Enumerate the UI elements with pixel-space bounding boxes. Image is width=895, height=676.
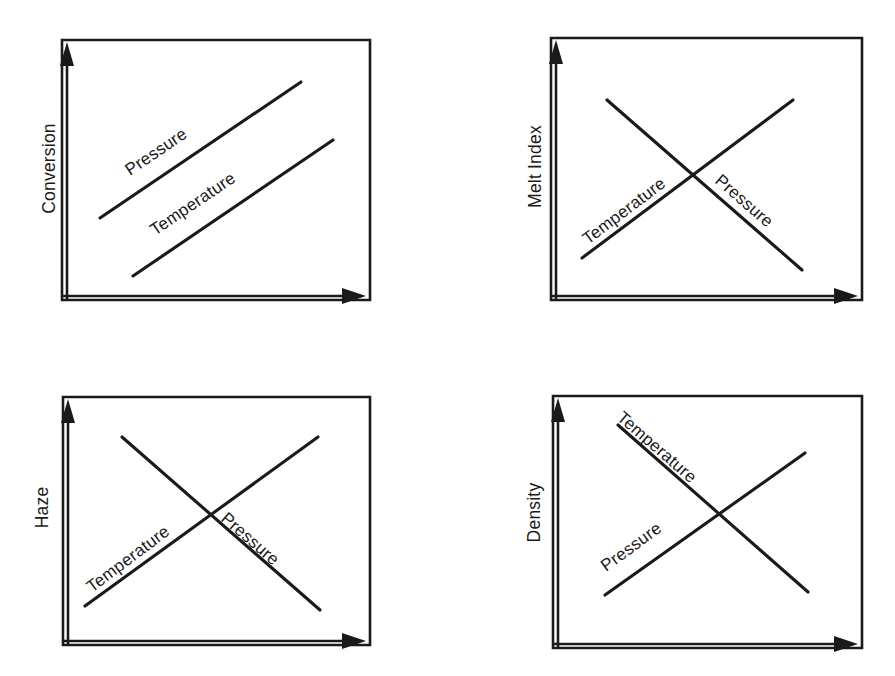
plot-area-haze: Temperature Pressure	[0, 357, 400, 676]
trend-line-pressure	[607, 100, 802, 270]
curve-label-temperature: Temperature	[613, 408, 700, 487]
trend-line-temperature	[85, 437, 318, 606]
panel-conversion: Conversion Pressure Temperature	[0, 0, 400, 330]
curve-label-temperature: Temperature	[147, 168, 239, 239]
x-axis-arrow-icon	[834, 288, 858, 304]
figure-canvas: Conversion Pressure Temperature Melt Ind…	[0, 0, 895, 676]
y-axis-label-density: Density	[524, 455, 545, 570]
plot-area-density: Temperature Pressure	[490, 357, 895, 676]
y-axis-label-conversion: Conversion	[39, 114, 60, 224]
y-axis-label-haze: Haze	[32, 458, 53, 558]
x-axis-arrow-icon	[342, 288, 366, 304]
trend-line-pressure	[605, 453, 805, 595]
panel-melt-index: Melt Index Temperature Pressure	[490, 0, 895, 330]
curve-label-temperature: Temperature	[83, 522, 173, 597]
panel-frame	[62, 40, 370, 300]
plot-area-conversion: Pressure Temperature	[0, 0, 400, 330]
trend-line-temperature	[133, 140, 333, 276]
y-axis-label-melt-index: Melt Index	[525, 107, 546, 227]
curve-label-temperature: Temperature	[579, 174, 669, 249]
curve-label-pressure: Pressure	[122, 124, 191, 179]
panel-frame	[551, 38, 862, 300]
curve-label-pressure: Pressure	[597, 518, 665, 575]
x-axis-arrow-icon	[342, 633, 366, 649]
panel-haze: Haze Temperature Pressure	[0, 357, 400, 676]
curve-label-pressure: Pressure	[217, 509, 283, 570]
panel-density: Density Temperature Pressure	[490, 357, 895, 676]
x-axis-arrow-icon	[834, 636, 858, 652]
plot-area-melt-index: Temperature Pressure	[490, 0, 895, 330]
